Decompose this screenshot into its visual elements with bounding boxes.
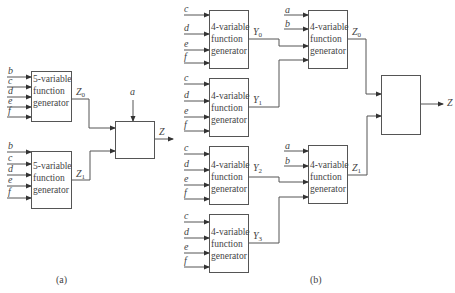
b-y1-input-c: c [184,72,188,83]
b-output-y3: Y3 [253,230,262,243]
b-y2-input-e: e [184,173,188,184]
b-generator-z1-label: 4-variable function generator [310,159,349,195]
b-y0-input-d: d [184,22,189,33]
b-y1-input-e: e [184,105,188,116]
a-output-z1: Z1 [76,168,85,181]
a-gen1-input-b: b [8,140,13,151]
a-mux [115,121,155,159]
b-z1-input-a: a [285,140,290,151]
b-y1-input-f: f [184,119,187,130]
b-y3-input-f: f [184,255,187,266]
b-y1-input-d: d [184,89,189,100]
b-y0-input-c: c [184,3,188,14]
a-output-z: Z [159,126,165,137]
a-gen1-input-e: e [8,174,12,185]
b-y2-input-d: d [184,158,189,169]
b-output-y1: Y1 [253,94,262,107]
caption-a: (a) [56,274,67,285]
b-y2-input-c: c [184,142,188,153]
a-gen1-input-c: c [8,152,12,163]
b-output-z1: Z1 [352,162,361,175]
a-generator-1-label: 5-variable function generator [33,160,72,196]
a-output-z0: Z0 [76,86,85,99]
b-generator-y2-label: 4-variable function generator [211,159,250,195]
b-y3-input-d: d [184,226,189,237]
b-final-mux [381,75,421,135]
b-y0-input-e: e [184,38,188,49]
b-z0-input-b: b [285,18,290,29]
b-y2-input-f: f [184,187,187,198]
b-generator-z0-label: 4-variable function generator [310,21,349,57]
a-select-a: a [130,86,135,97]
b-y3-input-e: e [184,241,188,252]
b-generator-y3-label: 4-variable function generator [211,226,250,262]
b-z1-input-b: b [285,155,290,166]
a-gen0-input-f: f [8,105,11,116]
b-output-z0: Z0 [352,26,361,39]
b-generator-y0-label: 4-variable function generator [211,21,250,57]
b-z0-input-a: a [285,4,290,15]
a-gen1-input-d: d [8,163,13,174]
a-generator-0-label: 5-variable function generator [33,73,72,109]
caption-b: (b) [310,274,322,285]
b-y0-input-f: f [184,51,187,62]
a-gen1-input-f: f [8,186,11,197]
b-generator-y1-label: 4-variable function generator [211,90,250,126]
b-y3-input-c: c [184,210,188,221]
b-output-y2: Y2 [253,162,262,175]
b-output-y0: Y0 [253,26,262,39]
b-output-z: Z [447,97,453,108]
